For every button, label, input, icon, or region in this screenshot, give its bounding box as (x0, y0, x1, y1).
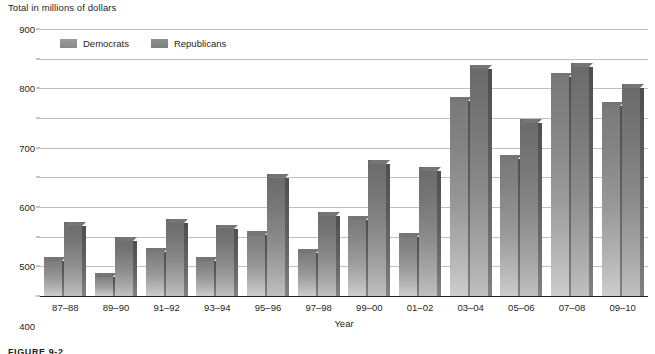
bar-top-face (470, 65, 492, 69)
y-tick-label-800: 800 (19, 83, 35, 94)
bar-democrats-91-92 (146, 248, 164, 296)
bar-front-face (166, 219, 184, 296)
bar-group (247, 29, 289, 296)
bar-front-face (115, 237, 133, 296)
bar-top-face (115, 237, 137, 241)
x-tick-label-05-06: 05–06 (508, 302, 534, 313)
bar-front-face (368, 160, 386, 296)
bar-republicans-89-90 (115, 237, 133, 296)
bar-top-face (146, 248, 168, 252)
bar-republicans-09-10 (622, 84, 640, 296)
y-axis-title: Total in millions of dollars (8, 2, 116, 13)
bar-side-face (133, 241, 137, 296)
bar-group (298, 29, 340, 296)
bar-side-face (285, 178, 289, 296)
gridline-0: 0 (40, 296, 648, 297)
bar-groups (40, 29, 648, 296)
bar-democrats-95-96 (247, 231, 265, 296)
bar-republicans-93-94 (216, 225, 234, 296)
bar-front-face (419, 167, 437, 296)
bar-group (399, 29, 441, 296)
bar-group (551, 29, 593, 296)
bar-front-face (146, 248, 164, 296)
bar-front-face (216, 225, 234, 296)
x-tick-label-09-10: 09–10 (609, 302, 635, 313)
bar-side-face (488, 69, 492, 296)
x-tick-label-91-92: 91–92 (153, 302, 179, 313)
y-tick-label-700: 700 (19, 142, 35, 153)
bar-front-face (520, 119, 538, 296)
bar-front-face (571, 63, 589, 296)
bar-democrats-89-90 (95, 273, 113, 296)
bar-top-face (318, 212, 340, 216)
bar-front-face (399, 233, 417, 296)
bar-democrats-97-98 (298, 249, 316, 296)
bar-side-face (184, 223, 188, 296)
bar-side-face (234, 229, 238, 296)
bar-republicans-95-96 (267, 174, 285, 296)
bar-democrats-87-88 (44, 257, 62, 296)
x-tick-label-93-94: 93–94 (204, 302, 230, 313)
x-tick-label-89-90: 89–90 (103, 302, 129, 313)
bar-front-face (500, 155, 518, 297)
bar-side-face (82, 226, 86, 296)
y-tick-label-500: 500 (19, 261, 35, 272)
bar-group (44, 29, 86, 296)
bar-side-face (538, 123, 542, 296)
x-tick-label-01-02: 01–02 (407, 302, 433, 313)
bar-republicans-97-98 (318, 212, 336, 296)
bar-group (146, 29, 188, 296)
bar-democrats-01-02 (399, 233, 417, 296)
x-tick-label-07-08: 07–08 (559, 302, 585, 313)
bar-front-face (64, 222, 82, 296)
y-tick-label-600: 600 (19, 202, 35, 213)
x-tick-label-99-00: 99–00 (356, 302, 382, 313)
bar-group (95, 29, 137, 296)
x-tick-label-03-04: 03–04 (457, 302, 483, 313)
bar-top-face (602, 102, 624, 106)
bar-top-face (95, 273, 117, 277)
bar-front-face (348, 216, 366, 296)
bar-side-face (386, 164, 390, 296)
x-tick-label-95-96: 95–96 (255, 302, 281, 313)
x-axis-title: Year (40, 318, 648, 329)
bar-top-face (551, 73, 573, 77)
bar-democrats-03-04 (450, 97, 468, 296)
bar-top-face (267, 174, 289, 178)
bar-side-face (437, 171, 441, 296)
bar-front-face (318, 212, 336, 296)
bar-top-face (368, 160, 390, 164)
bar-front-face (267, 174, 285, 296)
bar-group (348, 29, 390, 296)
bar-front-face (450, 97, 468, 296)
bar-front-face (622, 84, 640, 296)
bar-republicans-07-08 (571, 63, 589, 296)
bar-democrats-07-08 (551, 73, 569, 296)
bar-republicans-05-06 (520, 119, 538, 296)
bar-front-face (247, 231, 265, 296)
bar-front-face (196, 257, 214, 296)
bar-front-face (298, 249, 316, 296)
bar-front-face (551, 73, 569, 296)
bar-democrats-99-00 (348, 216, 366, 296)
bar-republicans-87-88 (64, 222, 82, 296)
bar-top-face (450, 97, 472, 101)
bar-group (602, 29, 644, 296)
bar-top-face (500, 155, 522, 159)
bar-democrats-93-94 (196, 257, 214, 296)
x-tick-label-87-88: 87–88 (52, 302, 78, 313)
bar-republicans-91-92 (166, 219, 184, 296)
bar-top-face (166, 219, 188, 223)
y-tick-label-400: 400 (19, 320, 35, 331)
bar-republicans-03-04 (470, 65, 488, 296)
bar-democrats-09-10 (602, 102, 620, 296)
bar-group (500, 29, 542, 296)
bar-group (196, 29, 238, 296)
plot-area: 9008007006005004003002001000 (40, 29, 648, 296)
bar-republicans-99-00 (368, 160, 386, 296)
x-tick-label-97-98: 97–98 (305, 302, 331, 313)
bar-group (450, 29, 492, 296)
bar-side-face (589, 67, 593, 296)
y-tick-label-900: 900 (19, 24, 35, 35)
bar-side-face (640, 88, 644, 296)
